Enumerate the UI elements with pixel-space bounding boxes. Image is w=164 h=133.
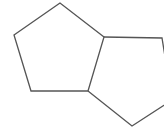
bicyclic-structure-diagram (0, 0, 164, 133)
left-pentagon-ring (14, 3, 104, 91)
structure-canvas (0, 0, 164, 133)
